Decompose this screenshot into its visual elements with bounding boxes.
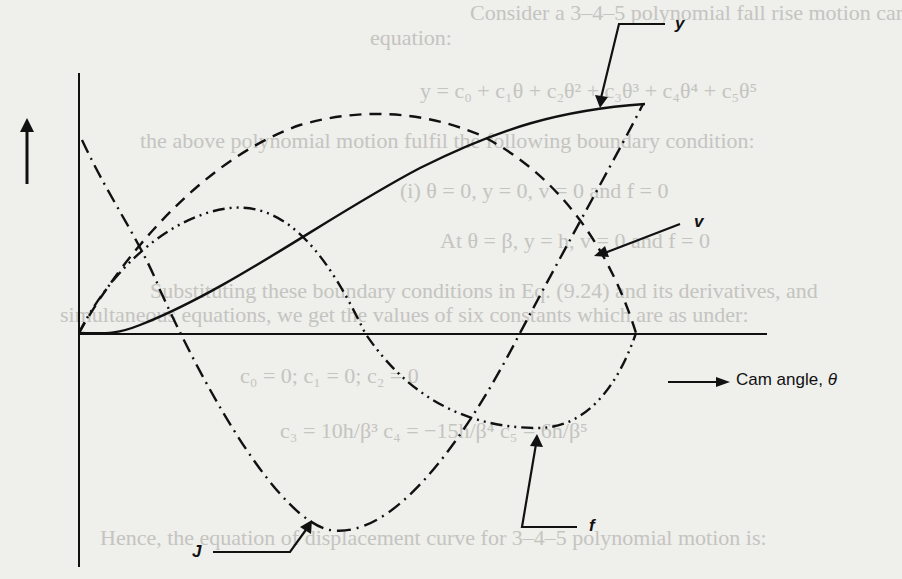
label-v: v [694,212,703,232]
label-y: y [675,14,684,34]
theta-symbol: θ [828,370,837,389]
velocity-curve-v [79,114,636,333]
label-leader-v [594,224,680,257]
label-leader-y [595,24,665,108]
label-J: J [192,542,201,562]
x-axis-label: Cam angle, [736,370,823,389]
acceleration-curve-f [79,208,636,428]
label-leader-J [213,520,312,552]
jerk-curve-J [82,104,643,531]
x-axis-arrow-icon [668,377,730,387]
label-f: f [589,516,595,536]
cam-motion-diagram [0,0,902,579]
x-axis-caption: Cam angle, θ [736,370,837,390]
up-arrow-icon [20,118,34,184]
label-leader-f [522,434,577,527]
